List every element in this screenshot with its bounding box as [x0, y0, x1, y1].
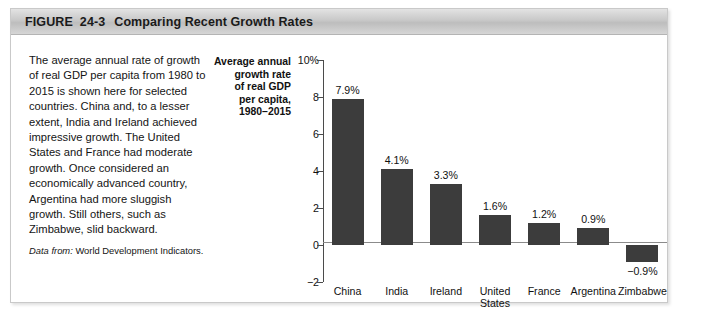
y-axis-title: Average annualgrowth rateof real GDPper … — [207, 56, 291, 119]
x-axis-tick-label-line: India — [372, 285, 421, 297]
bar-value-label: 0.9% — [581, 213, 605, 225]
bar-chart: Average annualgrowth rateof real GDPper … — [207, 49, 667, 299]
bar-group[interactable]: 0.9% — [569, 49, 618, 299]
bar-group[interactable]: −0.9% — [618, 49, 667, 299]
x-axis-tick-label-line: States — [470, 297, 519, 309]
x-axis-tick-label: China — [323, 285, 372, 297]
bar-value-label: −0.9% — [627, 265, 657, 277]
y-axis-tick-label: 10% — [298, 54, 319, 66]
bar-value-label: 1.6% — [483, 200, 507, 212]
figure-title: Comparing Recent Growth Rates — [114, 15, 313, 29]
y-axis-title-line: of real GDP — [207, 81, 291, 94]
bar-group[interactable]: 1.6% — [470, 49, 519, 299]
bar[interactable] — [332, 99, 364, 245]
x-axis-tick-label-line: United — [470, 285, 519, 297]
bar[interactable] — [626, 245, 658, 262]
bar-group[interactable]: 1.2% — [520, 49, 569, 299]
y-axis-tick-mark — [317, 134, 323, 135]
bar[interactable] — [430, 184, 462, 245]
x-axis-tick-label: Argentina — [569, 285, 618, 297]
y-axis-tick-mark — [317, 171, 323, 172]
x-axis-tick-label-line: Argentina — [569, 285, 618, 297]
bar-group[interactable]: 3.3% — [421, 49, 470, 299]
x-axis-tick-label: UnitedStates — [470, 285, 519, 310]
x-axis-tick-label: Ireland — [421, 285, 470, 297]
x-axis-tick-label-line: Ireland — [421, 285, 470, 297]
y-axis-tick-mark — [317, 60, 323, 61]
y-axis-tick-labels: 10%86420−2 — [291, 49, 323, 299]
figure-header: FIGURE24-3Comparing Recent Growth Rates — [11, 9, 667, 35]
bar[interactable] — [577, 228, 609, 245]
y-axis-tick-mark — [317, 245, 323, 246]
y-axis-tick-mark — [317, 97, 323, 98]
caption-source: Data from: World Development Indicators. — [29, 245, 207, 257]
figure-header-text: FIGURE24-3Comparing Recent Growth Rates — [11, 15, 313, 29]
bar-value-label: 1.2% — [532, 208, 556, 220]
bar-value-label: 7.9% — [335, 84, 359, 96]
bar-value-label: 3.3% — [434, 169, 458, 181]
caption-column: The average annual rate of growth of rea… — [29, 53, 207, 257]
bar[interactable] — [528, 223, 560, 245]
bars-layer: 7.9%4.1%3.3%1.6%1.2%0.9%−0.9% — [323, 49, 667, 299]
x-axis-tick-label-line: Zimbabwe — [618, 285, 667, 297]
bar[interactable] — [381, 169, 413, 245]
y-axis-title-line: per capita, — [207, 94, 291, 107]
figure-panel: FIGURE24-3Comparing Recent Growth Rates … — [10, 8, 668, 303]
bar-group[interactable]: 7.9% — [323, 49, 372, 299]
caption-source-label: Data from: — [29, 245, 73, 256]
plot-frame: 7.9%4.1%3.3%1.6%1.2%0.9%−0.9% — [323, 49, 667, 299]
figure-number: 24-3 — [80, 15, 105, 29]
y-axis-tick-mark — [317, 282, 323, 283]
y-axis-title-line: growth rate — [207, 69, 291, 82]
x-axis-tick-label: Zimbabwe — [618, 285, 667, 297]
x-axis-tick-label: France — [520, 285, 569, 297]
caption-source-text: World Development Indicators. — [75, 245, 203, 256]
bar[interactable] — [479, 215, 511, 245]
x-axis-tick-label-line: France — [520, 285, 569, 297]
bar-group[interactable]: 4.1% — [372, 49, 421, 299]
y-axis-tick-mark — [317, 208, 323, 209]
y-axis-title-line: 1980–2015 — [207, 106, 291, 119]
x-axis-tick-label: India — [372, 285, 421, 297]
figure-label: FIGURE — [25, 15, 73, 29]
x-axis-tick-label-line: China — [323, 285, 372, 297]
y-axis-title-line: Average annual — [207, 56, 291, 69]
bar-value-label: 4.1% — [385, 154, 409, 166]
x-axis-tick-labels: ChinaIndiaIrelandUnitedStatesFranceArgen… — [323, 285, 667, 319]
caption-body: The average annual rate of growth of rea… — [29, 53, 207, 238]
